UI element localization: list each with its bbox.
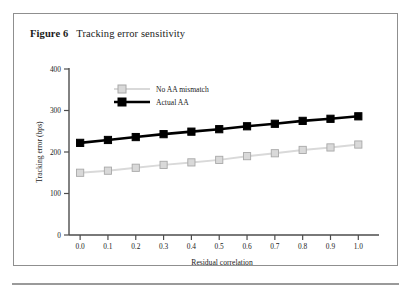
x-axis-tick-label: 0.1	[103, 242, 113, 251]
x-axis-tick-label: 0.2	[131, 242, 141, 251]
series-1-marker	[188, 128, 195, 135]
series-1-marker	[355, 113, 362, 120]
series-1-marker	[132, 133, 139, 140]
series-0-marker	[327, 144, 334, 151]
series-0-marker	[271, 150, 278, 157]
y-axis-tick-label: 100	[50, 189, 61, 198]
series-0-marker	[160, 161, 167, 168]
y-axis-tick-label: 400	[50, 65, 61, 74]
series-0-marker	[216, 156, 223, 163]
series-1-marker	[327, 115, 334, 122]
y-axis-tick-label: 200	[50, 148, 61, 157]
series-0-marker	[77, 169, 84, 176]
series-0-marker	[355, 141, 362, 148]
series-0-marker	[104, 167, 111, 174]
legend-label-1: Actual AA	[156, 98, 189, 107]
x-axis-tick-label: 0.6	[242, 242, 252, 251]
series-1-marker	[271, 120, 278, 127]
series-1-marker	[299, 117, 306, 124]
legend-label-0: No AA mismatch	[156, 85, 209, 94]
x-axis-tick-label: 0.5	[215, 242, 225, 251]
y-axis-tick-label: 300	[50, 106, 61, 115]
series-1-marker	[243, 123, 250, 130]
x-axis-tick-label: 0.4	[187, 242, 197, 251]
series-0-marker	[299, 146, 306, 153]
x-axis-tick-label: 0.7	[270, 242, 280, 251]
chart-axes: 01002003004000.00.10.20.30.40.50.60.70.8…	[50, 65, 379, 251]
x-axis-tick-label: 1.0	[354, 242, 364, 251]
series-0-marker	[132, 164, 139, 171]
y-axis-tick-label: 0	[57, 231, 61, 240]
x-axis-tick-label: 0.0	[76, 242, 86, 251]
series-1-marker	[104, 136, 111, 143]
y-axis-title: Tracking error (bps)	[35, 121, 44, 183]
x-axis-tick-label: 0.8	[298, 242, 308, 251]
footer-rule	[12, 283, 399, 285]
chart-series	[77, 113, 362, 177]
legend-swatch-marker-0	[118, 85, 126, 93]
legend-swatch-marker-1	[118, 98, 126, 106]
chart-legend: No AA mismatchActual AA	[114, 85, 209, 107]
x-axis-tick-label: 0.9	[326, 242, 336, 251]
series-1-marker	[216, 126, 223, 133]
chart-plot-area: 01002003004000.00.10.20.30.40.50.60.70.8…	[14, 14, 399, 267]
series-1-marker	[160, 131, 167, 138]
series-0-marker	[188, 159, 195, 166]
series-1-marker	[77, 139, 84, 146]
figure-panel: Figure 6Tracking error sensitivity 01002…	[13, 13, 398, 266]
tracking-error-line-chart: 01002003004000.00.10.20.30.40.50.60.70.8…	[14, 14, 399, 267]
series-0-marker	[243, 153, 250, 160]
x-axis-title: Residual correlation	[191, 258, 253, 267]
x-axis-tick-label: 0.3	[159, 242, 169, 251]
